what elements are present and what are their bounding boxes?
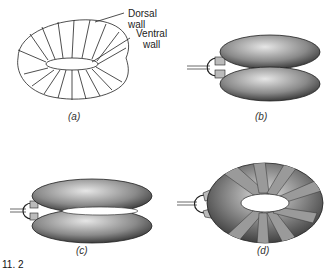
dorsal-wall-label: Dorsal wall — [128, 8, 165, 30]
panel-d: (d) — [165, 133, 331, 266]
figure-number-fragment: 11. 2 — [2, 259, 24, 270]
panel-c: (c) — [0, 133, 165, 266]
toroid-banded — [165, 133, 331, 266]
toroid-inflated-side — [165, 0, 331, 133]
panel-a: Dorsal wall Ventral wall (a) — [0, 0, 165, 133]
caption-b: (b) — [255, 111, 267, 122]
caption-c: (c) — [76, 245, 88, 256]
ventral-wall-label: Ventral wall — [136, 28, 167, 50]
caption-d: (d) — [257, 245, 269, 256]
panel-b: (b) — [165, 0, 331, 133]
caption-a: (a) — [68, 111, 80, 122]
